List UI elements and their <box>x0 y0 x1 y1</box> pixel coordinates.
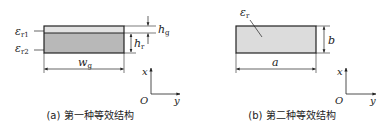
figure-a: εr1 εr2 hg hr wg x O y ( <box>15 16 180 121</box>
b-label: b <box>328 34 335 47</box>
diagram-canvas: εr1 εr2 hg hr wg x O y ( <box>0 0 392 129</box>
layer-2-rect <box>44 33 124 53</box>
layer-1-rect <box>44 26 124 33</box>
y-axis-label-b: y <box>369 95 376 106</box>
eps-r1-label: εr1 <box>15 25 29 39</box>
caption-a: (a) 第一种等效结构 <box>46 109 133 121</box>
wg-label: wg <box>78 56 92 70</box>
a-label: a <box>272 56 279 69</box>
origin-label: O <box>140 95 148 106</box>
eps-r-label: εr <box>240 6 250 20</box>
eps-r2-label: εr2 <box>15 42 29 56</box>
origin-label-b: O <box>335 95 343 106</box>
x-axis-label: x <box>142 66 148 77</box>
x-axis-label-b: x <box>337 66 343 77</box>
hg-label: hg <box>158 23 170 37</box>
y-axis-label: y <box>173 95 180 106</box>
figure-b: εr b a x O y (b) 第二种等效结构 <box>236 6 376 121</box>
hr-label: hr <box>134 37 145 51</box>
material-rect <box>236 26 316 53</box>
caption-b: (b) 第二种等效结构 <box>248 109 335 121</box>
